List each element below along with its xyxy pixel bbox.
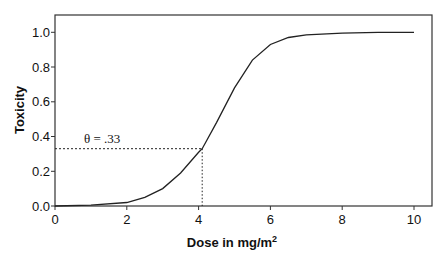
x-axis xyxy=(55,206,414,210)
threshold-annotation: θ = .33 xyxy=(84,131,120,146)
chart-svg: 0.0 0.2 0.4 0.6 0.8 1.0 0 2 4 6 8 10 Dos… xyxy=(0,0,445,259)
x-tick-label: 6 xyxy=(267,212,274,227)
y-tick-label: 1.0 xyxy=(32,25,50,40)
y-tick-label: 0.8 xyxy=(32,60,50,75)
x-tick-label: 0 xyxy=(51,212,58,227)
x-tick-label: 2 xyxy=(123,212,130,227)
x-axis-title: Dose in mg/m2 xyxy=(187,234,277,250)
plot-frame xyxy=(55,15,432,206)
x-tick-label: 10 xyxy=(407,212,421,227)
y-axis-title: Toxicity xyxy=(12,85,27,134)
y-tick-label: 0.2 xyxy=(32,164,50,179)
x-tick-label: 8 xyxy=(339,212,346,227)
y-tick-label: 0.6 xyxy=(32,94,50,109)
x-tick-label: 4 xyxy=(195,212,202,227)
y-tick-label: 0.0 xyxy=(32,199,50,214)
y-tick-label: 0.4 xyxy=(32,129,50,144)
dose-toxicity-curve xyxy=(55,32,414,206)
